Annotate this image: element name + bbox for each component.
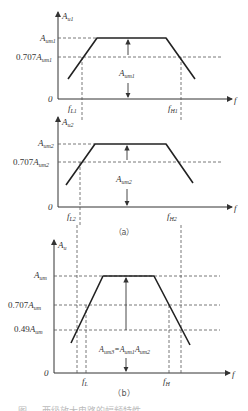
gain-annotation: Aum1 — [118, 68, 135, 79]
response-curve — [71, 276, 190, 345]
aum-label: Aum — [33, 270, 48, 281]
y-axis-label: Au2 — [61, 117, 74, 128]
gain-annotation: Aum2 — [115, 174, 132, 185]
fl-label: fL — [82, 376, 89, 387]
gain-annotation: Aum3=Aum1Aum2 — [98, 345, 150, 355]
figure-canvas: Au1 Aum1 0.707Aum1 Aum1 0 fL1 fH1 f Au2 … — [0, 0, 248, 411]
aum-label: Aum1 — [39, 33, 56, 44]
x-axis-label: f — [234, 95, 238, 105]
049-label: 0.49Aum — [14, 324, 43, 335]
chart-stage1: Au1 Aum1 0.707Aum1 Aum1 0 fL1 fH1 f — [16, 11, 238, 120]
0707-label: 0.707Aum1 — [16, 52, 52, 63]
chart-stage2: Au2 Aum2 0.707Aum2 Aum2 0 fL2 fH2 f — [13, 117, 238, 225]
fh-label: fH — [163, 376, 171, 387]
fh-label: fH2 — [167, 211, 177, 222]
fl-label: fL2 — [67, 211, 76, 222]
chart-overall: Au Aum 0.707Aum 0.49Aum Aum3=Aum1Aum2 0 … — [8, 225, 236, 387]
origin-label: 0 — [48, 94, 53, 104]
x-axis-label: f — [232, 369, 236, 379]
subcaption-a: （a） — [0, 226, 248, 237]
origin-label: 0 — [48, 202, 53, 212]
x-axis-label: f — [234, 203, 238, 213]
fh-label: fH1 — [168, 103, 178, 114]
fl-label: fL1 — [68, 103, 77, 114]
0707-label: 0.707Aum — [8, 300, 42, 311]
0707-label: 0.707Aum2 — [13, 157, 49, 168]
y-axis-label: Au1 — [61, 11, 74, 22]
y-axis-label: Au — [57, 240, 67, 251]
aum-label: Aum2 — [37, 138, 54, 149]
origin-label: 0 — [44, 368, 49, 378]
figure-caption-partial: 图 — 两级放大电路的幅频特性 — [18, 404, 141, 411]
subcaption-b: （b） — [0, 387, 248, 398]
